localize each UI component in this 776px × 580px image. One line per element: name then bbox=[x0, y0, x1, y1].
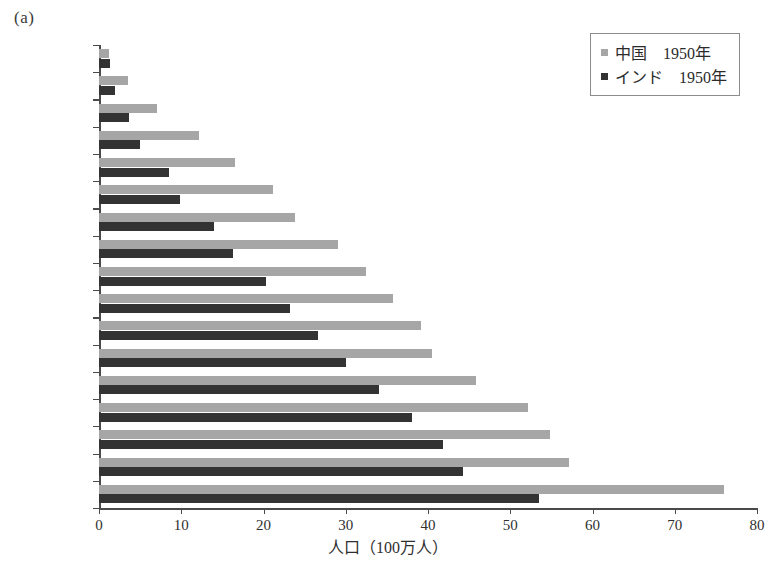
x-tick-40 bbox=[428, 508, 429, 514]
bar-china bbox=[99, 267, 366, 276]
bar-india bbox=[99, 222, 214, 231]
bar-india bbox=[99, 413, 412, 422]
x-tick-label-0: 0 bbox=[95, 517, 103, 534]
bar-india bbox=[99, 440, 443, 449]
bar-china bbox=[99, 240, 338, 249]
bar-india bbox=[99, 113, 129, 122]
bar-india bbox=[99, 331, 318, 340]
y-tick-11 bbox=[93, 345, 99, 346]
x-tick-80 bbox=[757, 508, 758, 514]
legend-label-china: 中国 1950年 bbox=[615, 40, 711, 64]
bar-china bbox=[99, 76, 128, 85]
x-tick-label-40: 40 bbox=[421, 517, 436, 534]
x-tick-label-30: 30 bbox=[338, 517, 353, 534]
bar-china bbox=[99, 458, 569, 467]
y-tick-5 bbox=[93, 181, 99, 182]
x-tick-label-50: 50 bbox=[503, 517, 518, 534]
y-tick-2 bbox=[93, 99, 99, 100]
y-tick-4 bbox=[93, 154, 99, 155]
bar-india bbox=[99, 59, 110, 68]
x-tick-label-80: 80 bbox=[750, 517, 765, 534]
y-tick-0 bbox=[93, 45, 99, 46]
y-tick-7 bbox=[93, 236, 99, 237]
x-tick-70 bbox=[675, 508, 676, 514]
bar-india bbox=[99, 467, 463, 476]
panel-label: (a) bbox=[14, 8, 34, 28]
bar-china bbox=[99, 49, 109, 58]
x-tick-30 bbox=[346, 508, 347, 514]
y-tick-9 bbox=[93, 290, 99, 291]
bar-india bbox=[99, 140, 140, 149]
bar-india bbox=[99, 304, 290, 313]
y-tick-14 bbox=[93, 426, 99, 427]
bar-china bbox=[99, 131, 199, 140]
bar-china bbox=[99, 430, 550, 439]
x-tick-label-60: 60 bbox=[585, 517, 600, 534]
y-tick-15 bbox=[93, 454, 99, 455]
y-tick-6 bbox=[93, 208, 99, 209]
y-tick-end bbox=[93, 508, 99, 509]
bar-china bbox=[99, 403, 528, 412]
legend-item-china: 中国 1950年 bbox=[601, 40, 727, 64]
bar-india bbox=[99, 385, 379, 394]
y-tick-10 bbox=[93, 317, 99, 318]
x-tick-60 bbox=[593, 508, 594, 514]
bar-india bbox=[99, 86, 115, 95]
x-tick-0 bbox=[99, 508, 100, 514]
chart-legend: 中国 1950年 インド 1950年 bbox=[590, 33, 740, 96]
bar-india bbox=[99, 277, 266, 286]
x-tick-20 bbox=[264, 508, 265, 514]
x-tick-label-10: 10 bbox=[174, 517, 189, 534]
legend-item-india: インド 1950年 bbox=[601, 64, 727, 88]
x-tick-label-70: 70 bbox=[667, 517, 682, 534]
bar-india bbox=[99, 494, 539, 503]
y-tick-12 bbox=[93, 372, 99, 373]
figure-panel: (a) 01020304050607080 80＋75－7970－7465－69… bbox=[0, 0, 776, 580]
legend-swatch-china-icon bbox=[601, 49, 608, 56]
x-tick-label-20: 20 bbox=[256, 517, 271, 534]
bar-china bbox=[99, 349, 432, 358]
y-tick-16 bbox=[93, 481, 99, 482]
y-tick-3 bbox=[93, 127, 99, 128]
bar-china bbox=[99, 321, 421, 330]
y-tick-8 bbox=[93, 263, 99, 264]
bar-india bbox=[99, 195, 180, 204]
x-tick-50 bbox=[510, 508, 511, 514]
y-tick-13 bbox=[93, 399, 99, 400]
bar-china bbox=[99, 104, 157, 113]
x-axis-title: 人口（100万人） bbox=[0, 534, 776, 558]
y-tick-1 bbox=[93, 72, 99, 73]
bar-india bbox=[99, 168, 169, 177]
legend-label-india: インド 1950年 bbox=[615, 64, 727, 88]
bar-china bbox=[99, 185, 273, 194]
bar-china bbox=[99, 294, 393, 303]
plot-area: 01020304050607080 80＋75－7970－7465－6960－6… bbox=[99, 45, 757, 508]
bar-india bbox=[99, 249, 233, 258]
bar-china bbox=[99, 485, 724, 494]
bar-china bbox=[99, 158, 235, 167]
legend-swatch-india-icon bbox=[601, 73, 608, 80]
x-tick-10 bbox=[181, 508, 182, 514]
bar-china bbox=[99, 213, 295, 222]
bar-india bbox=[99, 358, 346, 367]
bar-china bbox=[99, 376, 476, 385]
